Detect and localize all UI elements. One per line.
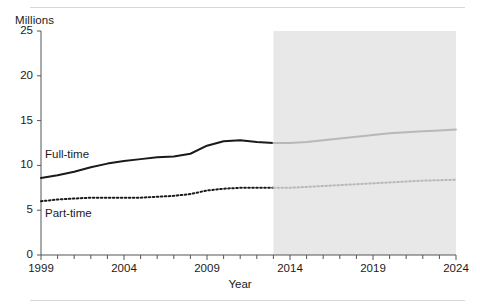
chart-figure: Millions Projected Full-time Part-time Y… bbox=[0, 0, 480, 308]
plot-area bbox=[0, 0, 480, 308]
y-tick-label: 5 bbox=[7, 204, 33, 216]
x-tick-label: 2019 bbox=[343, 263, 403, 275]
x-tick-label: 2024 bbox=[426, 263, 480, 275]
x-tick-label: 1999 bbox=[11, 263, 71, 275]
x-tick-label: 2014 bbox=[260, 263, 320, 275]
y-tick-label: 20 bbox=[7, 70, 33, 82]
y-tick-label: 15 bbox=[7, 115, 33, 127]
y-tick-label: 25 bbox=[7, 25, 33, 37]
x-tick-label: 2009 bbox=[177, 263, 237, 275]
x-tick-label: 2004 bbox=[94, 263, 154, 275]
y-tick-label: 10 bbox=[7, 159, 33, 171]
y-tick-label: 0 bbox=[7, 249, 33, 261]
